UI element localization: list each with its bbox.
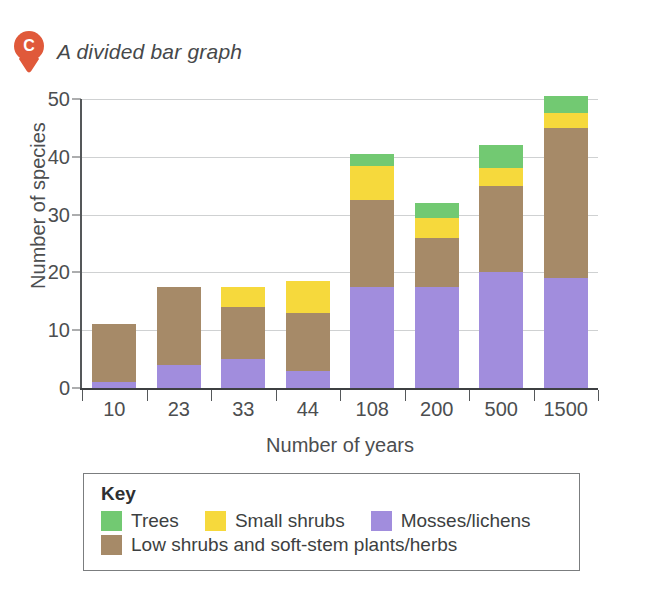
- bar-segment[interactable]: [350, 287, 394, 388]
- y-axis-tick-label: 50: [48, 88, 70, 111]
- figure-caption-text: A divided bar graph: [57, 40, 242, 64]
- stacked-bar[interactable]: [286, 281, 330, 388]
- legend-color-swatch: [101, 535, 122, 555]
- bar-series-container: [82, 99, 598, 388]
- legend-title: Key: [101, 483, 579, 505]
- bar-segment[interactable]: [479, 168, 523, 185]
- legend-entry[interactable]: Small shrubs: [205, 510, 345, 532]
- bar-slot: [405, 99, 470, 388]
- plot-frame: [80, 99, 598, 390]
- bar-segment[interactable]: [479, 186, 523, 273]
- legend-entry[interactable]: Trees: [101, 510, 179, 532]
- bar-slot: [469, 99, 534, 388]
- bar-segment[interactable]: [544, 113, 588, 127]
- legend-label: Low shrubs and soft-stem plants/herbs: [131, 534, 457, 556]
- figure-caption: C A divided bar graph: [14, 30, 242, 74]
- bar-segment[interactable]: [415, 238, 459, 287]
- bar-segment[interactable]: [92, 382, 136, 388]
- x-axis-tick-labels: 102333441082005001500: [82, 398, 598, 421]
- bar-slot: [276, 99, 341, 388]
- legend-entry[interactable]: Low shrubs and soft-stem plants/herbs: [101, 534, 457, 556]
- legend-color-swatch: [371, 511, 392, 531]
- legend-label: Mosses/lichens: [401, 510, 531, 532]
- x-axis-tick-label: 10: [82, 398, 147, 421]
- y-axis-tick-label: 20: [48, 261, 70, 284]
- bar-segment[interactable]: [415, 287, 459, 388]
- stacked-bar[interactable]: [544, 96, 588, 388]
- bar-segment[interactable]: [544, 128, 588, 278]
- bar-segment[interactable]: [92, 324, 136, 382]
- legend-color-swatch: [205, 511, 226, 531]
- legend-row-top: TreesSmall shrubsMosses/lichens: [101, 510, 579, 532]
- x-axis-tick-label: 44: [276, 398, 341, 421]
- stacked-bar[interactable]: [479, 145, 523, 388]
- y-axis-tick-label: 40: [48, 145, 70, 168]
- bar-slot: [211, 99, 276, 388]
- bar-segment[interactable]: [286, 313, 330, 371]
- stacked-bar[interactable]: [92, 324, 136, 388]
- bar-slot: [534, 99, 599, 388]
- x-axis-tick-label: 108: [340, 398, 405, 421]
- y-axis-tick-label: 0: [59, 377, 70, 400]
- y-axis-tick-label: 30: [48, 203, 70, 226]
- bar-segment[interactable]: [350, 166, 394, 201]
- legend-label: Trees: [131, 510, 179, 532]
- legend-row-bottom: Low shrubs and soft-stem plants/herbs: [101, 534, 579, 556]
- x-axis-title: Number of years: [82, 434, 598, 457]
- stacked-bar[interactable]: [157, 287, 201, 388]
- y-axis-ticks: 01020304050: [24, 86, 80, 390]
- bar-segment[interactable]: [479, 145, 523, 168]
- bar-segment[interactable]: [157, 365, 201, 388]
- bar-segment[interactable]: [221, 287, 265, 307]
- bar-segment[interactable]: [479, 272, 523, 388]
- x-axis-tick-label: 23: [147, 398, 212, 421]
- bar-segment[interactable]: [544, 278, 588, 388]
- figure-marker-letter: C: [14, 31, 44, 61]
- bar-slot: [82, 99, 147, 388]
- chart-area: Number of species 01020304050 1023334410…: [0, 86, 645, 446]
- stacked-bar[interactable]: [350, 154, 394, 388]
- x-axis-tick-label: 1500: [534, 398, 599, 421]
- bar-segment[interactable]: [286, 371, 330, 388]
- bar-segment[interactable]: [221, 307, 265, 359]
- stacked-bar[interactable]: [221, 287, 265, 388]
- bar-segment[interactable]: [415, 203, 459, 217]
- x-axis-tick-label: 500: [469, 398, 534, 421]
- legend-box: Key TreesSmall shrubsMosses/lichens Low …: [83, 473, 580, 571]
- legend-label: Small shrubs: [235, 510, 345, 532]
- bar-segment[interactable]: [544, 96, 588, 113]
- legend-entry[interactable]: Mosses/lichens: [371, 510, 531, 532]
- figure-marker-pin-icon: C: [14, 31, 44, 73]
- x-axis-tick-label: 200: [405, 398, 470, 421]
- bar-segment[interactable]: [350, 200, 394, 287]
- bar-segment[interactable]: [350, 154, 394, 166]
- bar-slot: [340, 99, 405, 388]
- bar-segment[interactable]: [157, 287, 201, 365]
- x-axis-tick-mark: [598, 390, 599, 401]
- bar-slot: [147, 99, 212, 388]
- bar-segment[interactable]: [221, 359, 265, 388]
- legend-color-swatch: [101, 511, 122, 531]
- y-axis-tick-label: 10: [48, 319, 70, 342]
- x-axis-tick-label: 33: [211, 398, 276, 421]
- bar-segment[interactable]: [415, 218, 459, 238]
- stacked-bar[interactable]: [415, 203, 459, 388]
- bar-segment[interactable]: [286, 281, 330, 313]
